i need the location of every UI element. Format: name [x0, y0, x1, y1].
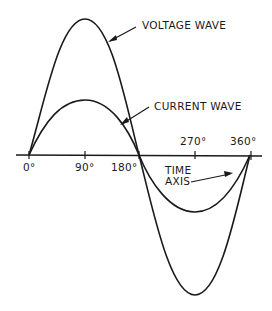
tick-label-360: 360° [230, 136, 257, 147]
tick-label-270: 270° [180, 136, 207, 147]
time-axis-arrow [191, 171, 233, 182]
current-wave-label: CURRENT WAVE [154, 101, 242, 112]
tick-label-0: 0° [23, 162, 36, 173]
voltage-wave-label: VOLTAGE WAVE [142, 20, 226, 31]
sine-wave-diagram [0, 0, 272, 311]
time-axis-label-line2: AXIS [165, 176, 190, 187]
tick-label-90: 90° [75, 162, 95, 173]
tick-label-180: 180° [111, 162, 138, 173]
current-wave-arrow [120, 107, 149, 125]
voltage-wave-arrow [108, 27, 136, 42]
